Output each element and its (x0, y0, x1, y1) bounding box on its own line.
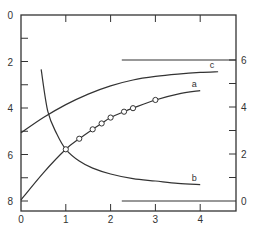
y-left-tick-label: 2 (7, 57, 13, 68)
y-left-tick-label: 4 (7, 103, 13, 114)
open-circle-marker (90, 127, 95, 132)
open-circle-marker (77, 136, 82, 141)
curves (21, 69, 218, 199)
open-circle-marker (121, 109, 126, 114)
curve-label-c: c (210, 60, 215, 70)
y-left-tick-label: 8 (7, 196, 13, 207)
y-right-tick-label: 2 (241, 149, 247, 160)
open-circle-marker (99, 121, 104, 126)
y-right-tick-label: 0 (241, 196, 247, 207)
open-circle-marker (153, 97, 158, 102)
y-right-tick-label: 6 (241, 55, 247, 66)
curve-label-a: a (192, 79, 197, 89)
plot-border (21, 15, 236, 211)
x-tick-label: 2 (108, 214, 114, 225)
open-circle-marker (130, 106, 135, 111)
open-circle-marker (108, 115, 113, 120)
curve-c (21, 72, 218, 133)
y-left-tick-label: 0 (7, 10, 13, 21)
y-right-tick-label: 4 (241, 102, 247, 113)
x-tick-label: 3 (153, 214, 159, 225)
axis-ticks (21, 15, 236, 211)
curve-b (41, 69, 200, 184)
open-circle-marker (63, 147, 68, 152)
x-tick-label: 4 (197, 214, 203, 225)
plot-frame (21, 15, 236, 211)
y-left-tick-label: 6 (7, 150, 13, 161)
chart: 01234024680246acb (0, 0, 254, 233)
curve-label-b: b (192, 173, 197, 183)
x-tick-label: 0 (18, 214, 24, 225)
data-markers (63, 97, 158, 152)
x-tick-label: 1 (63, 214, 69, 225)
